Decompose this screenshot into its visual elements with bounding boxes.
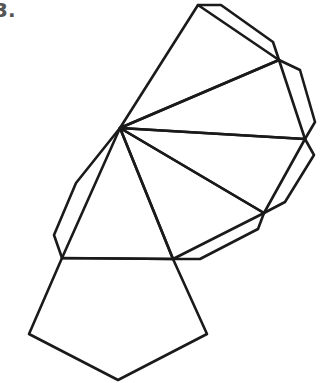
diagram-canvas: 3.	[0, 0, 327, 383]
pyramid-net-figure	[0, 0, 327, 383]
triangular-face	[62, 128, 173, 259]
triangular-face	[120, 128, 305, 213]
triangular-face	[120, 5, 279, 128]
base-pentagon	[29, 258, 207, 380]
triangular-face	[120, 60, 305, 139]
triangular-face	[120, 128, 264, 259]
glue-flap	[279, 60, 315, 139]
